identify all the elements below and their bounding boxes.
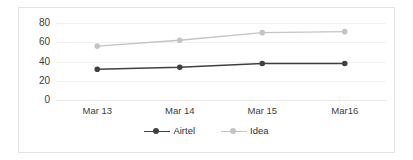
legend-swatch-icon xyxy=(144,126,170,136)
data-point-airtel xyxy=(94,66,100,72)
series-canvas xyxy=(56,23,386,100)
x-tick-label: Mar 15 xyxy=(248,105,278,116)
data-point-idea xyxy=(177,38,183,44)
y-tick-label: 0 xyxy=(14,95,50,105)
y-tick-label: 60 xyxy=(14,37,50,47)
y-tick-label: 20 xyxy=(14,76,50,86)
series-line-idea xyxy=(97,32,345,46)
x-tick-label: Mar 14 xyxy=(165,105,195,116)
legend-swatch-icon xyxy=(221,126,247,136)
x-axis-tick-labels: Mar 13Mar 14Mar 15Mar16 xyxy=(56,105,386,119)
legend-item-airtel[interactable]: Airtel xyxy=(144,126,195,136)
data-point-idea xyxy=(94,43,100,49)
x-tick-label: Mar 13 xyxy=(83,105,113,116)
y-tick-label: 80 xyxy=(14,18,50,28)
data-point-airtel xyxy=(177,64,183,70)
legend-label: Airtel xyxy=(173,126,195,136)
data-point-idea xyxy=(342,29,348,35)
legend-item-idea[interactable]: Idea xyxy=(221,126,269,136)
x-tick-label: Mar16 xyxy=(331,105,358,116)
line-chart-figure: 020406080 Mar 13Mar 14Mar 15Mar16 Airtel… xyxy=(0,0,413,160)
gridline xyxy=(56,100,386,101)
data-point-airtel xyxy=(259,61,265,67)
series-line-airtel xyxy=(97,63,345,69)
data-point-idea xyxy=(259,30,265,36)
y-axis-tick-labels: 020406080 xyxy=(14,23,50,100)
y-tick-label: 40 xyxy=(14,57,50,67)
chart-legend: AirtelIdea xyxy=(0,126,413,136)
plot-area xyxy=(56,23,386,100)
legend-label: Idea xyxy=(250,126,269,136)
data-point-airtel xyxy=(342,61,348,67)
